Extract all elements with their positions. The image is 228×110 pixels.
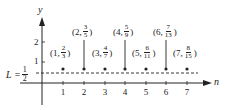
x-tick-4: 4 [120,87,130,97]
point-label-7: (7,815) [173,45,197,60]
point-label-2: (2,35) [72,24,92,39]
x-tick-5: 5 [141,87,151,97]
y-axis-label: y [38,5,42,15]
x-tick-1: 1 [58,87,68,97]
limit-label: L = 1 2 [6,66,29,83]
point-label-5: (5,611) [132,45,156,60]
data-point [144,67,147,70]
data-point [82,67,85,70]
x-tick-2: 2 [79,87,89,97]
data-point [123,67,126,70]
y-tick-1: 1 [34,56,39,66]
point-label-6: (6,713) [153,24,177,39]
data-point [164,67,167,70]
y-axis-arrow-icon [39,17,45,26]
data-point [103,67,106,70]
x-tick-3: 3 [100,87,110,97]
data-point [185,67,188,70]
x-axis-label: n [214,77,219,87]
point-label-3: (3,47) [92,45,112,60]
y-tick-2: 2 [34,37,39,47]
x-tick-6: 6 [161,87,171,97]
point-label-4: (4,59) [113,24,133,39]
x-axis-arrow-icon [203,80,212,86]
x-tick-7: 7 [182,87,192,97]
point-label-1: (1,23) [50,45,70,60]
data-point [61,67,64,70]
